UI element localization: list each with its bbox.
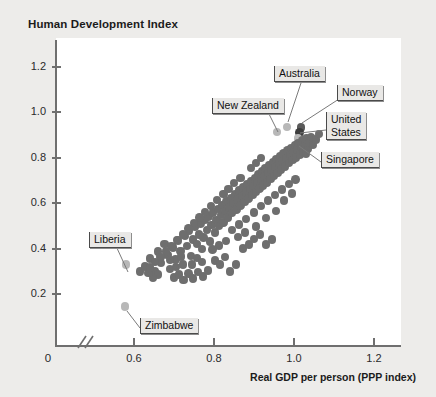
x-tick bbox=[213, 338, 215, 347]
annotation-callout-singapore[interactable]: Singapore bbox=[321, 152, 379, 168]
annotation-callout-norway[interactable]: Norway bbox=[337, 85, 383, 101]
data-point bbox=[256, 230, 265, 239]
data-point bbox=[204, 266, 213, 275]
annotation-callout-zimbabwe[interactable]: Zimbabwe bbox=[140, 318, 198, 334]
x-tick-label: 1.0 bbox=[274, 352, 314, 364]
y-tick-label: 0.2 bbox=[12, 287, 46, 299]
y-tick bbox=[52, 157, 61, 159]
data-point bbox=[208, 245, 217, 254]
data-point bbox=[146, 263, 155, 272]
x-axis-origin-label: 0 bbox=[38, 352, 58, 364]
x-tick bbox=[293, 338, 295, 347]
x-tick bbox=[133, 338, 135, 347]
data-point bbox=[302, 149, 311, 158]
page-title: Human Development Index bbox=[28, 18, 178, 30]
y-tick bbox=[52, 202, 61, 204]
x-tick-label: 1.2 bbox=[354, 352, 394, 364]
y-tick-label: 1.2 bbox=[12, 60, 46, 72]
annotation-callout-new-zealand[interactable]: New Zealand bbox=[212, 98, 284, 114]
x-axis-label: Real GDP per person (PPP index) bbox=[250, 371, 416, 383]
data-point bbox=[216, 260, 225, 269]
annotation-callout-australia[interactable]: Australia bbox=[274, 66, 325, 82]
data-point bbox=[291, 175, 300, 184]
annotation-callout-united-states[interactable]: UnitedStates bbox=[326, 112, 366, 140]
data-point bbox=[232, 260, 241, 269]
y-tick bbox=[52, 248, 61, 250]
data-point bbox=[122, 260, 131, 269]
y-tick bbox=[52, 293, 61, 295]
data-point bbox=[268, 235, 277, 244]
y-tick-label: 0.6 bbox=[12, 196, 46, 208]
y-tick bbox=[52, 111, 61, 113]
y-tick-label: 0.8 bbox=[12, 151, 46, 163]
annotation-label-line: States bbox=[331, 126, 361, 139]
axis-break-icon bbox=[72, 330, 102, 350]
x-tick-label: 0.8 bbox=[194, 352, 234, 364]
data-point bbox=[280, 196, 289, 205]
figure-container: Human Development Index 0.20.40.60.81.01… bbox=[0, 0, 436, 397]
data-point bbox=[288, 189, 297, 198]
x-tick-label: 0.6 bbox=[114, 352, 154, 364]
y-tick-label: 0.4 bbox=[12, 242, 46, 254]
annotation-label-line: United bbox=[331, 113, 361, 126]
y-tick bbox=[52, 66, 61, 68]
data-point bbox=[250, 208, 259, 217]
x-axis-line bbox=[55, 345, 401, 347]
y-axis-line bbox=[55, 40, 57, 346]
data-point bbox=[235, 220, 244, 229]
data-point bbox=[121, 302, 130, 311]
y-tick-label: 1.0 bbox=[12, 105, 46, 117]
x-tick bbox=[373, 338, 375, 347]
annotation-callout-liberia[interactable]: Liberia bbox=[89, 232, 131, 248]
